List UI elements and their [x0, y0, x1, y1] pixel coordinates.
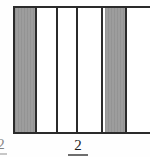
column-divider	[101, 8, 103, 132]
column-1-shaded	[15, 8, 37, 132]
column-5-shaded	[105, 8, 127, 132]
column-4-unshaded	[78, 8, 103, 132]
column-frame	[13, 6, 150, 134]
column-divider	[125, 8, 127, 132]
column-3-unshaded	[58, 8, 78, 132]
axis-label-underline	[68, 154, 88, 156]
axis-label-underline	[0, 153, 7, 155]
axis-label-left-clipped-text: 2	[0, 137, 5, 152]
column-2-unshaded	[37, 8, 58, 132]
axis-label-center-text: 2	[74, 137, 82, 153]
axis-label-left-clipped: 2	[0, 137, 7, 155]
column-6-unshaded	[129, 8, 150, 132]
shading-texture	[105, 8, 127, 132]
shading-texture	[15, 8, 37, 132]
figure-root: 2 2	[0, 0, 150, 157]
axis-label-center: 2	[68, 138, 88, 156]
